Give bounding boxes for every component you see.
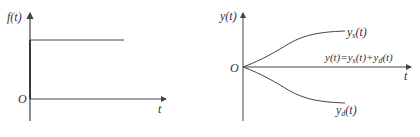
curve-yd — [243, 67, 345, 103]
right-y-label: y(t) — [220, 10, 237, 22]
right-plot — [243, 13, 411, 121]
label-sum: y(t)=ys(t)+yd(t) — [325, 52, 393, 65]
left-x-label: t — [158, 103, 161, 115]
left-plot — [30, 13, 166, 121]
diagram-canvas — [0, 0, 420, 137]
left-origin-label: O — [18, 93, 27, 105]
right-x-label: t — [404, 70, 407, 82]
label-ys: ys(t) — [347, 26, 367, 40]
right-origin-label: O — [230, 62, 239, 74]
left-y-label: f(t) — [7, 11, 22, 23]
label-yd: yd(t) — [336, 104, 357, 118]
